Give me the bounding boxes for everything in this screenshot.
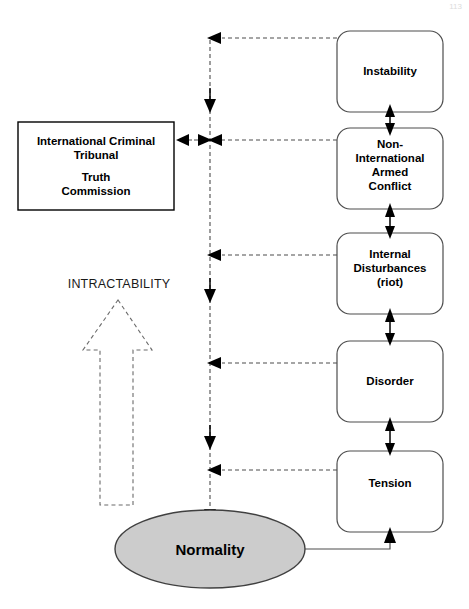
node-instability[interactable]: Instability (337, 31, 443, 112)
node-internal-disturbances-label-line1: Internal (369, 248, 411, 260)
node-internal-disturbances[interactable]: Internal Disturbances (riot) (337, 233, 443, 314)
node-tension-shape[interactable] (337, 451, 443, 532)
tribunal-label-line5: Commission (61, 185, 130, 197)
node-normality-label: Normality (175, 541, 245, 558)
node-non-international-armed-conflict[interactable]: Non- International Armed Conflict (337, 128, 443, 209)
page-number: 113 (449, 2, 462, 11)
connector-disorder-tension (385, 417, 395, 456)
node-internal-disturbances-label-line3: (riot) (377, 276, 403, 288)
feeder-instability-arrowhead (207, 32, 221, 44)
node-tension[interactable]: Tension (337, 451, 443, 532)
feeder-disorder-arrowhead (207, 357, 221, 369)
node-naic-label-line4: Conflict (369, 180, 412, 192)
central-dashed-spine (204, 40, 216, 523)
feeder-instability (207, 32, 337, 44)
tribunal-label-line4: Truth (82, 171, 111, 183)
feeder-naic (176, 134, 337, 146)
diagram-canvas: 113 Instability Non- International Armed… (0, 0, 469, 609)
node-normality[interactable]: Normality (115, 510, 305, 588)
feeder-internal-disturbances (207, 249, 337, 261)
node-disorder-label: Disorder (366, 375, 414, 387)
node-instability-label: Instability (363, 65, 417, 77)
dashed-feeders (176, 32, 337, 476)
intractability-arrow (83, 300, 152, 505)
feeder-internal-disturbances-arrowhead (207, 249, 221, 261)
tribunal-label-line1: International Criminal (37, 135, 155, 147)
spine-arrowhead-1 (204, 99, 216, 113)
intractability-axis-label: INTRACTABILITY (68, 277, 171, 291)
node-naic-label-line1: Non- (377, 138, 403, 150)
feeder-naic-arrowhead-spine (198, 134, 212, 146)
node-tension-label: Tension (368, 477, 411, 489)
feeder-tension (207, 464, 337, 476)
spine-arrowhead-2 (204, 289, 216, 303)
node-tribunal-truth-commission[interactable]: International Criminal Tribunal Truth Co… (18, 122, 174, 210)
node-internal-disturbances-label-line2: Disturbances (354, 262, 427, 274)
conflict-spectrum-diagram: 113 Instability Non- International Armed… (0, 0, 469, 609)
feeder-disorder (207, 357, 337, 369)
node-disorder[interactable]: Disorder (337, 341, 443, 422)
feeder-tension-arrowhead (207, 464, 221, 476)
intractability-arrow-outline (83, 300, 152, 505)
spine-arrowhead-3 (204, 436, 216, 450)
node-naic-label-line2: International (355, 152, 424, 164)
node-naic-label-line3: Armed (372, 166, 408, 178)
feeder-tribunal-arrowhead (176, 134, 189, 146)
normality-to-tension-line (305, 543, 390, 549)
tribunal-label-line2: Tribunal (74, 149, 119, 161)
